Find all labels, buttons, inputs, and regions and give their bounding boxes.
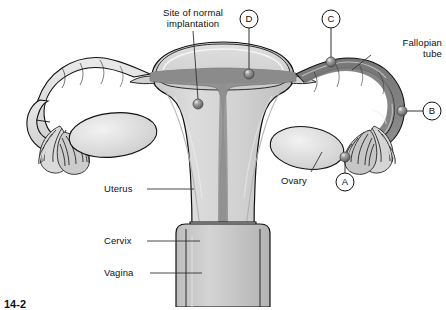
ovary-right xyxy=(267,122,346,174)
marker-c-sphere xyxy=(326,57,336,67)
label-vagina: Vagina xyxy=(104,267,150,278)
figure-caption: 14-2 xyxy=(4,298,26,310)
marker-b-letter: B xyxy=(429,105,435,116)
vagina-body xyxy=(176,224,270,307)
marker-a-letter: A xyxy=(342,176,349,187)
marker-d-letter: D xyxy=(246,13,253,24)
marker-d-sphere xyxy=(244,69,254,79)
normal-implantation-sphere xyxy=(193,99,203,109)
label-cervix: Cervix xyxy=(104,235,150,246)
label-uterus: Uterus xyxy=(104,183,150,194)
label-site-of-normal-implantation: Site of normal implantation xyxy=(141,7,245,29)
label-ovary: Ovary xyxy=(281,175,327,186)
marker-a-sphere xyxy=(340,152,350,162)
marker-c-letter: C xyxy=(328,13,335,24)
normal-implantation-sphere xyxy=(193,99,203,109)
marker-b-sphere xyxy=(397,106,407,116)
label-fallopian-tube: Fallopian tube xyxy=(372,37,442,59)
